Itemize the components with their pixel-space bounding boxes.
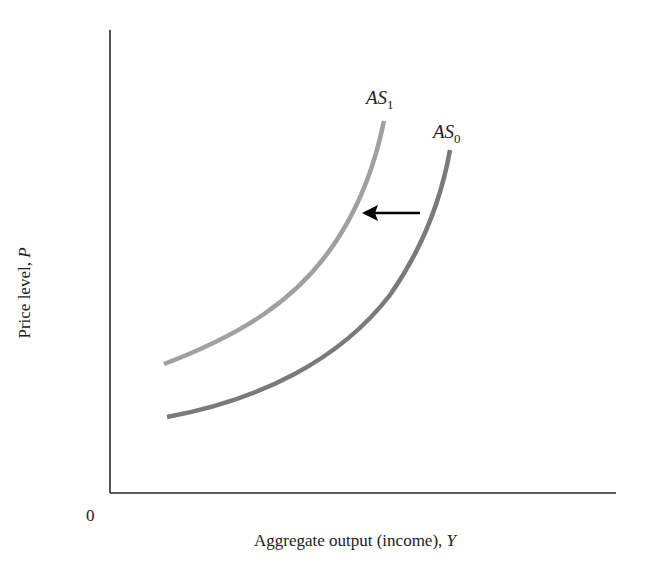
as0-curve	[167, 150, 450, 417]
as1-label: AS1	[364, 87, 394, 112]
axes	[110, 30, 616, 493]
aggregate-supply-shift-diagram: AS1 AS0 Price level, P Aggregate output …	[0, 0, 658, 569]
y-axis-title: Price level, P	[15, 247, 34, 338]
as1-curve	[164, 121, 384, 364]
origin-label: 0	[86, 506, 95, 525]
shift-left-arrow	[362, 205, 420, 221]
x-axis-title: Aggregate output (income), Y	[254, 531, 458, 550]
as0-label: AS0	[431, 121, 461, 146]
